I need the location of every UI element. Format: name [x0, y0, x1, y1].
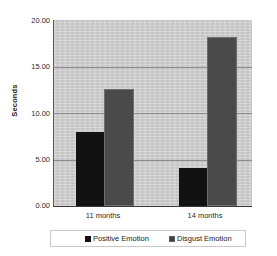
bar-chart: Seconds 20.00 15.00 10.00 5.00 0.00 11 m…: [0, 0, 277, 256]
y-axis-tick-labels: 20.00 15.00 10.00 5.00 0.00: [16, 0, 50, 256]
legend-label-disgust-emotion: Disgust Emotion: [177, 234, 232, 243]
y-tick-label-20: 20.00: [18, 16, 50, 25]
legend-entry-disgust-emotion: Disgust Emotion: [169, 234, 232, 243]
legend-label-positive-emotion: Positive Emotion: [93, 234, 149, 243]
y-tick-label-5: 5.00: [18, 155, 50, 164]
bar-11months-disgust-emotion: [104, 89, 134, 206]
y-tick-label-15: 15.00: [18, 62, 50, 71]
legend-entry-positive-emotion: Positive Emotion: [85, 234, 149, 243]
x-tick-label-14-months: 14 months: [172, 211, 238, 220]
plot-area: [53, 20, 252, 207]
x-tick-label-11-months: 11 months: [70, 211, 136, 220]
bar-14months-disgust-emotion: [207, 37, 237, 206]
bar-11months-positive-emotion: [76, 132, 104, 206]
y-tick-label-0: 0.00: [18, 201, 50, 210]
legend: Positive Emotion Disgust Emotion: [50, 230, 246, 247]
legend-swatch-hatched-icon: [169, 236, 175, 242]
bar-14months-positive-emotion: [179, 168, 207, 206]
y-tick-label-10: 10.00: [18, 109, 50, 118]
legend-swatch-solid-icon: [85, 236, 91, 242]
